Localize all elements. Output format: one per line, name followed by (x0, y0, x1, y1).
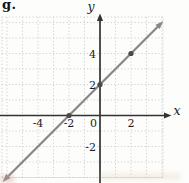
x-tick-label: 0 (90, 117, 97, 130)
scan-tint-bottom-left (0, 175, 14, 183)
x-tick-label: -4 (33, 117, 44, 130)
y-tick-label: -2 (85, 141, 96, 154)
y-tick-label: 4 (89, 48, 96, 61)
scan-tint-bottom (100, 173, 180, 180)
y-tick-label: 2 (89, 79, 96, 92)
x-axis-label: x (174, 103, 181, 118)
function-line (5, 24, 160, 179)
figure: -4-20242-2xy g. (0, 0, 189, 183)
y-axis-label: y (87, 0, 96, 14)
line-graph: -4-20242-2xy (0, 0, 189, 183)
x-axis-arrow (164, 112, 172, 118)
x-tick-label: 2 (128, 117, 135, 130)
point-marker (97, 82, 102, 87)
x-tick-label: -2 (64, 117, 75, 130)
figure-label: g. (2, 0, 17, 12)
point-marker (128, 51, 133, 56)
grid-border (2, 17, 163, 178)
